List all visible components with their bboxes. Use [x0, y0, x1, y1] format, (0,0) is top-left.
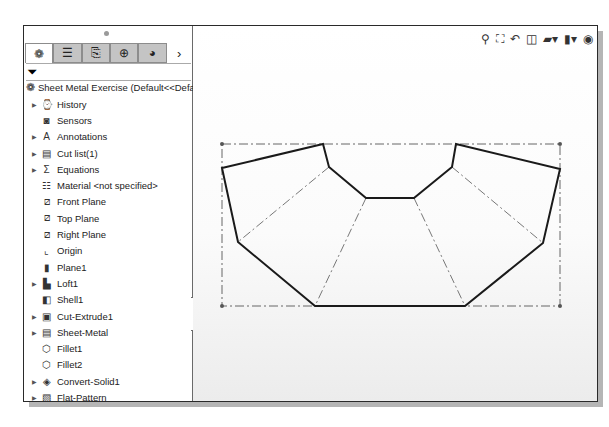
tree-item-equations[interactable]: ▶ΣEquations	[24, 161, 192, 177]
tree-item-right-plane[interactable]: ⧄Right Plane	[24, 226, 192, 242]
displaymanager-icon: ◕	[149, 46, 156, 60]
configurationmanager-icon: ⎘	[91, 46, 101, 60]
tree-item-convert-solid1[interactable]: ▶◈Convert-Solid1	[24, 373, 192, 389]
feature-tree: ▶⌚History ◙Sensors ▶AAnnotations ▶▤Cut l…	[24, 96, 192, 402]
expand-arrow-icon[interactable]: ▶	[28, 394, 40, 401]
expand-arrow-icon[interactable]: ▶	[28, 166, 40, 173]
part-icon: ❁	[26, 81, 35, 94]
bend-lines	[238, 167, 543, 306]
tab-dimxpertmanager[interactable]: ⊕	[110, 43, 138, 63]
solidworks-window: ❁ ☰ ⎘ ⊕ ◕ › ⏷ ❁ Sheet Metal Exercise (De…	[23, 25, 598, 402]
loft-icon: ▙	[40, 277, 53, 289]
graphics-area[interactable]: ⚲ ⛶ ↶ ◫ ▰▾ ▮▾ ◉	[193, 26, 597, 401]
plane-icon: ⧄	[40, 196, 53, 208]
tree-item-sheet-metal[interactable]: ▶▤Sheet-Metal	[24, 324, 192, 340]
flat-pattern-icon: ▧	[40, 391, 53, 402]
expand-arrow-icon[interactable]: ▶	[28, 101, 40, 108]
tree-item-label: Loft1	[57, 278, 78, 289]
tab-propertymanager[interactable]: ☰	[53, 43, 81, 63]
history-icon: ⌚	[40, 98, 53, 110]
tree-item-plane1[interactable]: ▮Plane1	[24, 259, 192, 275]
tree-item-cut-extrude1[interactable]: ▶▣Cut-Extrude1	[24, 308, 192, 324]
tab-featuremanager[interactable]: ❁	[25, 43, 53, 63]
expand-arrow-icon[interactable]: ▶	[28, 150, 40, 157]
flat-pattern-sketch	[193, 26, 597, 401]
tree-item-top-plane[interactable]: ⧄Top Plane	[24, 210, 192, 226]
bbox-corner-points	[220, 142, 562, 308]
tree-item-label: Sensors	[57, 115, 92, 126]
panel-grip[interactable]	[104, 31, 109, 36]
bounding-box	[222, 144, 560, 306]
tree-item-label: Cut list(1)	[57, 148, 98, 159]
tree-item-label: History	[57, 99, 87, 110]
tree-item-label: Fillet1	[57, 343, 82, 354]
tree-item-label: Cut-Extrude1	[57, 311, 113, 322]
tree-item-fillet2[interactable]: ⬡Fillet2	[24, 357, 192, 373]
ref-plane-icon: ▮	[40, 261, 53, 273]
tree-item-loft1[interactable]: ▶▙Loft1	[24, 275, 192, 291]
equations-icon: Σ	[40, 163, 53, 175]
tab-configurationmanager[interactable]: ⎘	[82, 43, 110, 63]
annotations-icon: A	[40, 131, 53, 143]
tree-item-history[interactable]: ▶⌚History	[24, 96, 192, 112]
tree-item-fillet1[interactable]: ⬡Fillet1	[24, 340, 192, 356]
tab-displaymanager[interactable]: ◕	[138, 43, 166, 63]
tree-item-shell1[interactable]: ◧Shell1	[24, 292, 192, 308]
shell-icon: ◧	[40, 294, 53, 306]
tree-item-origin[interactable]: ⌞Origin	[24, 243, 192, 259]
expand-arrow-icon[interactable]: ▶	[28, 313, 40, 320]
more-tabs-button[interactable]: ›	[167, 43, 192, 63]
tree-root[interactable]: ❁ Sheet Metal Exercise (Default<<Default	[26, 81, 205, 94]
convert-solid-icon: ◈	[40, 375, 53, 387]
propertymanager-icon: ☰	[62, 46, 73, 60]
root-label: Sheet Metal Exercise (Default<<Default	[38, 82, 205, 93]
tree-item-annotations[interactable]: ▶AAnnotations	[24, 129, 192, 145]
sheet-metal-icon: ▤	[40, 326, 53, 338]
tree-item-sensors[interactable]: ◙Sensors	[24, 112, 192, 128]
tree-item-label: Convert-Solid1	[57, 376, 120, 387]
fillet-icon: ⬡	[40, 343, 53, 355]
tree-item-label: Fillet2	[57, 359, 82, 370]
chevron-right-icon: ›	[177, 46, 181, 61]
tree-item-label: Plane1	[57, 262, 87, 273]
tree-item-label: Annotations	[57, 131, 107, 142]
tree-item-label: Front Plane	[57, 196, 106, 207]
expand-arrow-icon[interactable]: ▶	[28, 133, 40, 140]
tree-item-flat-pattern[interactable]: ▶▧Flat-Pattern	[24, 389, 192, 402]
cut-list-icon: ▤	[40, 147, 53, 159]
expand-arrow-icon[interactable]: ▶	[28, 329, 40, 336]
expand-arrow-icon[interactable]: ▶	[28, 280, 40, 287]
fillet-icon: ⬡	[40, 359, 53, 371]
sensors-icon: ◙	[40, 114, 53, 126]
tree-item-label: Shell1	[57, 294, 83, 305]
tree-item-label: Origin	[57, 245, 82, 256]
filter-icon: ⏷	[27, 64, 37, 80]
material-icon: ☷	[40, 180, 53, 192]
flat-pattern-outline	[222, 144, 560, 306]
tree-item-label: Right Plane	[57, 229, 106, 240]
plane-icon: ⧄	[40, 212, 53, 224]
tree-item-material[interactable]: ☷Material <not specified>	[24, 177, 192, 193]
tree-item-label: Flat-Pattern	[57, 392, 107, 402]
tree-filter[interactable]: ⏷	[26, 63, 191, 81]
origin-icon: ⌞	[40, 245, 53, 257]
featuremanager-icon: ❁	[34, 47, 44, 61]
tree-item-label: Equations	[57, 164, 99, 175]
cut-extrude-icon: ▣	[40, 310, 53, 322]
tree-item-cut-list[interactable]: ▶▤Cut list(1)	[24, 145, 192, 161]
tree-item-label: Top Plane	[57, 213, 99, 224]
tree-item-label: Sheet-Metal	[57, 327, 108, 338]
tree-item-label: Material <not specified>	[57, 180, 158, 191]
plane-icon: ⧄	[40, 229, 53, 241]
dimxpert-icon: ⊕	[119, 46, 129, 60]
featuremanager-panel: ❁ ☰ ⎘ ⊕ ◕ › ⏷ ❁ Sheet Metal Exercise (De…	[24, 26, 193, 401]
tree-item-front-plane[interactable]: ⧄Front Plane	[24, 194, 192, 210]
expand-arrow-icon[interactable]: ▶	[28, 378, 40, 385]
panel-tabs: ❁ ☰ ⎘ ⊕ ◕ ›	[25, 43, 192, 63]
